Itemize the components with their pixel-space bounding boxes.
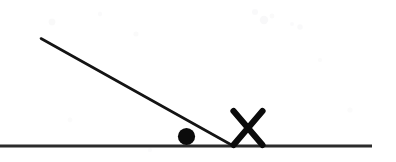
scan-speckle [318, 58, 322, 62]
background [0, 0, 396, 162]
scan-speckle [148, 148, 152, 152]
scan-speckle [49, 19, 56, 26]
scan-speckle [252, 9, 258, 15]
ball-dot [178, 128, 195, 145]
scan-speckle [68, 118, 73, 123]
scan-speckle [133, 31, 138, 36]
diagram-figure: Ball on an inclined line meeting a horiz… [0, 0, 396, 162]
scan-speckle [260, 16, 268, 24]
scan-speckle [270, 14, 275, 19]
scan-speckle [290, 22, 294, 26]
diagram-canvas [0, 0, 396, 162]
scan-speckle [297, 24, 303, 30]
scan-speckle [98, 12, 102, 16]
scan-speckle [347, 107, 352, 112]
